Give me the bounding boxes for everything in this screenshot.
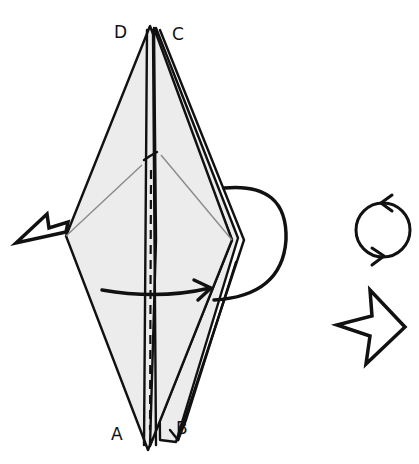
corner-label-d: D	[114, 24, 127, 41]
corner-label-c: C	[172, 26, 184, 43]
origami-diagram	[0, 0, 419, 464]
repeat-behind-icon	[337, 290, 405, 364]
push-arrow-icon	[16, 214, 68, 243]
paper-model	[66, 26, 232, 450]
turn-over-icon	[356, 195, 410, 265]
corner-label-a: A	[111, 426, 123, 443]
corner-label-b: B	[176, 420, 188, 437]
